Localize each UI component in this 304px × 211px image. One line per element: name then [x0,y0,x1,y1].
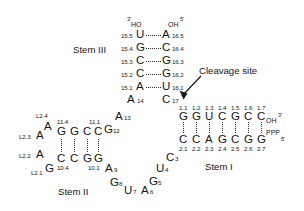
stem1-bottom-base: G [257,134,266,146]
stem1-bottom-number: 2.4 [218,146,226,152]
core-base: C [166,152,174,164]
core-base: A [105,163,113,175]
stem3-right-base: G [162,55,171,67]
stem1-top-base: C [257,111,265,123]
stem3-left-base: A [136,81,144,93]
hydrogen-bond [146,48,161,49]
stem2-bottom-base: G [94,153,103,165]
hydrogen-bond [146,74,161,75]
core-base: G [149,176,158,188]
stem2-top-base: C [94,126,102,138]
core-base-number: 12 [113,128,120,134]
core-base: U [156,163,164,175]
stem1-top-base: G [179,111,188,123]
loop2-base: A [36,130,44,142]
stem2-bottom-base: C [70,153,78,165]
stem1-top-base: C [244,111,252,123]
loop2-number: L2.4 [36,113,48,119]
hydrogen-bond [183,122,184,133]
stem2-top-base: G [70,126,79,138]
loop2-base: G [45,163,54,175]
stem1-top-prime-label: 3' [278,113,282,119]
stem3-left-number: 15.5 [121,33,133,39]
stem3-left-base: C [136,55,144,67]
core-base: G [110,177,119,189]
stem1-bottom-number: 2.1 [179,146,187,152]
stem3-left-number: 15.4 [121,46,133,52]
stem1-bottom-terminal-group: PPP [266,129,280,136]
hydrogen-bond [209,122,210,133]
stem-3-label: Stem III [73,45,106,55]
stem2-bottom-number: 10.4 [57,165,69,171]
stem1-bottom-base: G [218,134,227,146]
core-base: G [104,124,113,136]
hydrogen-bond [146,35,161,36]
stem1-bottom-number: 2.5 [231,146,239,152]
stem1-bottom-base: C [179,134,187,146]
hydrogen-bond [98,139,99,152]
stem3-left-base: G [136,42,145,54]
stem-1-label: Stem I [205,162,233,172]
core-base: A [141,185,149,197]
hydrogen-bond [146,61,161,62]
stem1-bottom-base: A [205,134,213,146]
stem1-bottom-number: 2.3 [205,146,213,152]
hydrogen-bond [261,122,262,133]
core-base: U [124,185,132,197]
stem3-left-base: C [136,68,144,80]
hydrogen-bond [222,122,223,133]
hydrogen-bond [74,139,75,152]
stem1-top-terminal-group: OH [266,117,277,124]
stem3-right-number: 16.1 [172,85,184,91]
rna-structure-diagram: 3' HO OH 5' 15.5 U 15.4 G 15.3 C 15.2 C … [0,0,304,211]
stem2-bottom-base: G [83,153,92,165]
stem3-right-base: A [162,29,170,41]
stem1-top-base: G [192,111,201,123]
loop2-number: L2.3 [19,134,31,140]
stem3-right-base: U [162,81,170,93]
stem3-right-number: 16.4 [172,46,184,52]
core-base-number: 3 [175,156,178,162]
core-base-number: 14 [137,98,144,104]
loop2-number: L2.1 [31,170,43,176]
core-base: A [127,94,135,106]
stem1-top-base: G [231,111,240,123]
stem2-top-base: C [83,126,91,138]
hydrogen-bond [87,139,88,152]
core-base-number: 8 [119,181,122,187]
stem1-bottom-base: G [244,134,253,146]
stem2-top-base: G [57,126,66,138]
stem1-bottom-base: C [192,134,200,146]
hydrogen-bond [61,139,62,152]
cleavage-site-label: Cleavage site [199,66,257,76]
hydrogen-bond [248,122,249,133]
stem3-left-number: 15.1 [121,85,133,91]
core-base-number: 17 [172,98,179,104]
stem3-left-terminal-group: HO [131,21,142,28]
core-base: A [115,111,123,123]
hydrogen-bond [196,122,197,133]
loop2-base: A [36,149,44,161]
stem3-right-base: C [162,42,170,54]
hydrogen-bond [146,87,161,88]
stem3-left-base: U [136,29,144,41]
stem3-left-number: 15.3 [121,59,133,65]
core-base-number: 7 [133,189,136,195]
stem3-right-number: 16.5 [172,33,184,39]
stem3-right-base: G [162,68,171,80]
loop2-base: A [44,121,52,133]
stem2-bottom-base: C [57,153,65,165]
stem1-bottom-number: 2.6 [244,146,252,152]
core-base: C [162,94,170,106]
stem1-top-base: U [205,111,213,123]
stem1-bottom-number: 2.2 [192,146,200,152]
stem1-bottom-base: C [231,134,239,146]
core-base-number: 5 [158,180,161,186]
stem3-left-number: 15.2 [121,72,133,78]
hydrogen-bond [235,122,236,133]
loop2-number: L2.2 [19,153,31,159]
stem3-right-prime-label: 5' [180,17,184,23]
stem1-top-base: C [218,111,226,123]
stem2-bottom-number: 10.1 [88,165,100,171]
stem3-right-terminal-group: OH [168,21,179,28]
